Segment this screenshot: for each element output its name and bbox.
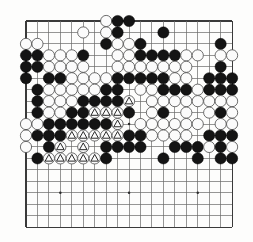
white-stone[interactable] <box>158 96 169 107</box>
white-stone[interactable] <box>101 27 112 38</box>
white-stone[interactable] <box>227 107 238 118</box>
black-stone[interactable] <box>146 50 157 61</box>
white-stone[interactable] <box>101 15 112 26</box>
black-stone[interactable] <box>32 107 43 118</box>
white-stone[interactable] <box>66 73 77 84</box>
white-stone[interactable] <box>43 61 54 72</box>
white-stone[interactable] <box>43 84 54 95</box>
white-stone[interactable] <box>227 50 238 61</box>
go-board-svg[interactable] <box>0 0 253 242</box>
black-stone[interactable] <box>66 107 77 118</box>
black-stone[interactable] <box>227 73 238 84</box>
white-stone[interactable] <box>181 61 192 72</box>
black-stone[interactable] <box>43 73 54 84</box>
black-stone[interactable] <box>20 61 31 72</box>
white-stone[interactable] <box>55 61 66 72</box>
white-stone[interactable] <box>43 50 54 61</box>
white-stone[interactable] <box>227 118 238 129</box>
black-stone[interactable] <box>204 73 215 84</box>
black-stone[interactable] <box>112 96 123 107</box>
white-stone[interactable] <box>181 50 192 61</box>
white-stone[interactable] <box>112 61 123 72</box>
black-stone[interactable] <box>101 96 112 107</box>
white-stone[interactable] <box>32 118 43 129</box>
black-stone[interactable] <box>78 118 89 129</box>
white-stone[interactable] <box>20 118 31 129</box>
white-stone[interactable] <box>43 96 54 107</box>
black-stone[interactable] <box>135 73 146 84</box>
black-stone[interactable] <box>204 84 215 95</box>
white-stone[interactable] <box>66 50 77 61</box>
white-stone[interactable] <box>204 141 215 152</box>
white-stone[interactable] <box>169 73 180 84</box>
white-stone[interactable] <box>66 96 77 107</box>
black-stone[interactable] <box>123 141 134 152</box>
black-stone[interactable] <box>227 153 238 164</box>
white-stone[interactable] <box>181 107 192 118</box>
white-stone[interactable] <box>158 118 169 129</box>
white-stone[interactable] <box>169 96 180 107</box>
black-stone[interactable] <box>169 84 180 95</box>
black-stone[interactable] <box>78 50 89 61</box>
black-stone[interactable] <box>43 130 54 141</box>
black-stone[interactable] <box>135 50 146 61</box>
white-stone[interactable] <box>123 61 134 72</box>
white-stone[interactable] <box>181 96 192 107</box>
black-stone[interactable] <box>78 96 89 107</box>
white-stone[interactable] <box>66 84 77 95</box>
black-stone[interactable] <box>215 84 226 95</box>
black-stone[interactable] <box>158 27 169 38</box>
white-stone[interactable] <box>181 130 192 141</box>
black-stone[interactable] <box>20 73 31 84</box>
black-stone[interactable] <box>215 38 226 49</box>
white-stone[interactable] <box>101 73 112 84</box>
white-stone[interactable] <box>215 96 226 107</box>
black-stone[interactable] <box>32 61 43 72</box>
white-stone[interactable] <box>169 61 180 72</box>
white-stone[interactable] <box>55 107 66 118</box>
white-stone[interactable] <box>32 38 43 49</box>
black-stone[interactable] <box>227 84 238 95</box>
black-stone[interactable] <box>112 27 123 38</box>
white-stone[interactable] <box>55 96 66 107</box>
white-stone[interactable] <box>181 73 192 84</box>
black-stone[interactable] <box>135 130 146 141</box>
black-stone[interactable] <box>43 141 54 152</box>
black-stone[interactable] <box>192 141 203 152</box>
white-stone[interactable] <box>78 84 89 95</box>
white-stone[interactable] <box>123 50 134 61</box>
white-stone[interactable] <box>215 118 226 129</box>
white-stone[interactable] <box>227 141 238 152</box>
black-stone[interactable] <box>135 141 146 152</box>
white-stone[interactable] <box>55 84 66 95</box>
black-stone[interactable] <box>101 84 112 95</box>
black-stone[interactable] <box>204 130 215 141</box>
white-stone[interactable] <box>181 118 192 129</box>
black-stone[interactable] <box>158 107 169 118</box>
black-stone[interactable] <box>32 84 43 95</box>
black-stone[interactable] <box>101 38 112 49</box>
white-stone[interactable] <box>146 118 157 129</box>
white-stone[interactable] <box>78 61 89 72</box>
white-stone[interactable] <box>66 61 77 72</box>
black-stone[interactable] <box>215 141 226 152</box>
black-stone[interactable] <box>20 50 31 61</box>
white-stone[interactable] <box>146 130 157 141</box>
white-stone[interactable] <box>78 27 89 38</box>
black-stone[interactable] <box>55 130 66 141</box>
black-stone[interactable] <box>215 107 226 118</box>
white-stone[interactable] <box>135 118 146 129</box>
black-stone[interactable] <box>123 15 134 26</box>
white-stone[interactable] <box>89 73 100 84</box>
black-stone[interactable] <box>215 73 226 84</box>
white-stone[interactable] <box>146 96 157 107</box>
white-stone[interactable] <box>20 38 31 49</box>
black-stone[interactable] <box>135 38 146 49</box>
black-stone[interactable] <box>181 84 192 95</box>
white-stone[interactable] <box>123 38 134 49</box>
black-stone[interactable] <box>32 50 43 61</box>
black-stone[interactable] <box>181 141 192 152</box>
black-stone[interactable] <box>158 73 169 84</box>
white-stone[interactable] <box>158 61 169 72</box>
white-stone[interactable] <box>89 84 100 95</box>
